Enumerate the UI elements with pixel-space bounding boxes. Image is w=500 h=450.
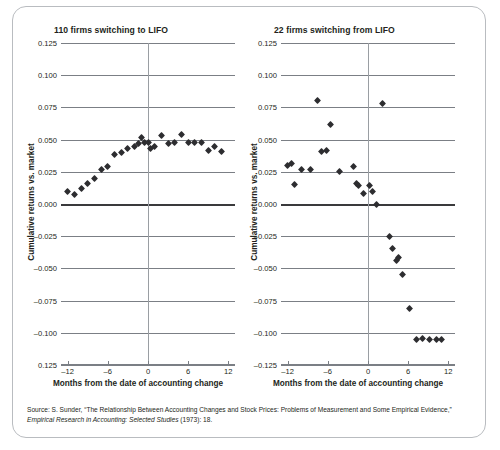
x-tick-label: 6 <box>186 367 190 376</box>
x-tick-mark <box>448 361 449 365</box>
data-point <box>406 305 413 312</box>
y-tick-label: 0.125 <box>258 39 277 48</box>
x-tick-label: 0 <box>366 367 370 376</box>
y-tick-label: 0.125 <box>38 39 57 48</box>
data-point <box>314 97 321 104</box>
data-point <box>291 181 298 188</box>
chart-title-right: 22 firms switching from LIFO <box>274 25 395 35</box>
y-axis-label-left: Cumulative returns vs. market <box>27 143 36 260</box>
x-tick-label: 6 <box>406 367 410 376</box>
chart-title-left: 110 firms switching to LIFO <box>54 25 168 35</box>
y-tick-label: –0.050 <box>34 264 57 273</box>
y-tick-label: –0.100 <box>34 328 57 337</box>
data-point <box>211 143 218 150</box>
y-tick-label: 0.050 <box>38 135 57 144</box>
x-tick-label: –6 <box>324 367 332 376</box>
data-point <box>327 121 334 128</box>
source-prefix: Source: S. Sunder, “The Relationship Bet… <box>27 406 452 413</box>
data-point <box>336 168 343 175</box>
data-point <box>399 271 406 278</box>
data-point <box>218 148 225 155</box>
data-point <box>355 182 362 189</box>
plot-area-left: 0.1250.1000.0750.0500.0250.000–0.025–0.0… <box>61 43 235 365</box>
y-tick-label: 0.125 <box>38 361 57 370</box>
x-tick-label: –12 <box>61 367 74 376</box>
source-citation: Source: S. Sunder, “The Relationship Bet… <box>27 405 475 425</box>
x-axis-label-right: Months from the date of accounting chang… <box>273 379 443 388</box>
y-tick-label: –0.050 <box>254 264 277 273</box>
x-axis-label-left: Months from the date of accounting chang… <box>53 379 223 388</box>
data-point <box>78 185 85 192</box>
data-point <box>395 254 402 261</box>
vertical-reference-line <box>368 43 369 365</box>
y-tick-label: 0.075 <box>38 103 57 112</box>
data-point <box>178 131 185 138</box>
x-tick-mark <box>148 361 149 365</box>
x-tick-mark <box>368 361 369 365</box>
data-point <box>205 147 212 154</box>
source-journal: Empirical Research in Accounting: Select… <box>27 416 179 423</box>
data-point <box>438 336 445 343</box>
data-point <box>91 175 98 182</box>
figure-card: 110 firms switching to LIFO Cumulative r… <box>12 6 486 438</box>
y-gridline <box>61 365 235 366</box>
x-tick-mark <box>228 361 229 365</box>
data-point <box>104 163 111 170</box>
x-tick-label: 12 <box>224 367 232 376</box>
chart-panel-right: 22 firms switching from LIFO Cumulative … <box>250 7 487 397</box>
y-tick-label: –0.100 <box>254 328 277 337</box>
y-tick-label: –0.075 <box>34 296 57 305</box>
y-tick-label: –0.025 <box>254 232 277 241</box>
y-tick-label: –0.075 <box>254 296 277 305</box>
plot-area-right: 0.1250.1000.0750.0500.0250.000–0.025–0.0… <box>281 43 455 365</box>
y-tick-label: 0.050 <box>258 135 277 144</box>
x-tick-mark <box>68 361 69 365</box>
y-tick-label: 0.025 <box>38 167 57 176</box>
y-tick-label: 0.100 <box>258 71 277 80</box>
data-point <box>379 100 386 107</box>
data-point <box>158 132 165 139</box>
x-tick-mark <box>408 361 409 365</box>
y-tick-label: –0.125 <box>254 361 277 370</box>
y-gridline <box>281 365 455 366</box>
y-tick-label: 0.100 <box>38 71 57 80</box>
data-point <box>389 245 396 252</box>
y-tick-label: 0.000 <box>258 200 277 209</box>
y-tick-label: 0.025 <box>258 167 277 176</box>
data-point <box>386 233 393 240</box>
data-point <box>118 149 125 156</box>
x-tick-label: 0 <box>146 367 150 376</box>
y-tick-label: –0.025 <box>34 232 57 241</box>
x-tick-mark <box>288 361 289 365</box>
data-point <box>323 147 330 154</box>
x-tick-label: –6 <box>104 367 112 376</box>
y-tick-label: 0.075 <box>258 103 277 112</box>
data-point <box>373 200 380 207</box>
data-point <box>360 190 367 197</box>
x-tick-label: –12 <box>281 367 294 376</box>
data-point <box>84 180 91 187</box>
data-point <box>350 163 357 170</box>
x-tick-label: 12 <box>444 367 452 376</box>
chart-panels: 110 firms switching to LIFO Cumulative r… <box>13 7 487 397</box>
x-tick-mark <box>108 361 109 365</box>
source-suffix: (1973): 18. <box>179 416 213 423</box>
x-tick-mark <box>188 361 189 365</box>
y-tick-label: 0.000 <box>38 200 57 209</box>
data-point <box>71 191 78 198</box>
chart-panel-left: 110 firms switching to LIFO Cumulative r… <box>13 7 250 397</box>
x-tick-mark <box>328 361 329 365</box>
vertical-reference-line <box>148 43 149 365</box>
data-point <box>369 188 376 195</box>
